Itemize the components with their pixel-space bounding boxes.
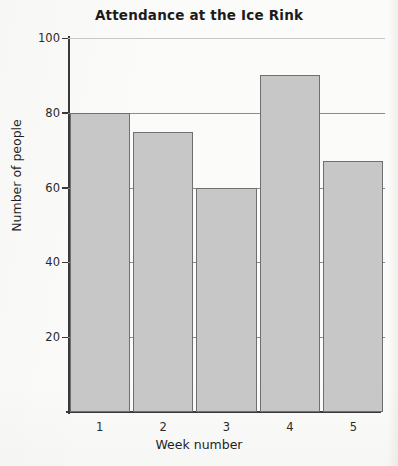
y-tick-label-100: 100 <box>38 31 60 45</box>
y-tick-label-80: 80 <box>45 106 60 120</box>
x-tick-label-2: 2 <box>159 420 166 434</box>
y-tick-label-60: 60 <box>45 181 60 195</box>
bar-week-5 <box>323 161 383 412</box>
bar-week-1 <box>70 113 130 412</box>
plot-area <box>68 38 385 412</box>
bar-week-3 <box>196 188 256 412</box>
bar-week-2 <box>133 132 193 413</box>
y-tick-label-40: 40 <box>45 255 60 269</box>
page-edge-shadow <box>388 0 398 466</box>
gridline-100 <box>68 38 385 39</box>
y-axis-tick-group: 20406080100 <box>0 38 68 412</box>
chart-page: Attendance at the Ice Rink Number of peo… <box>0 0 398 466</box>
x-tick-label-5: 5 <box>350 420 357 434</box>
chart-title: Attendance at the Ice Rink <box>0 7 398 23</box>
x-tick-label-1: 1 <box>96 420 103 434</box>
bar-week-4 <box>260 75 320 412</box>
y-tick-label-20: 20 <box>45 330 60 344</box>
x-axis-title: Week number <box>0 437 398 452</box>
x-tick-label-3: 3 <box>223 420 230 434</box>
x-tick-label-4: 4 <box>286 420 293 434</box>
